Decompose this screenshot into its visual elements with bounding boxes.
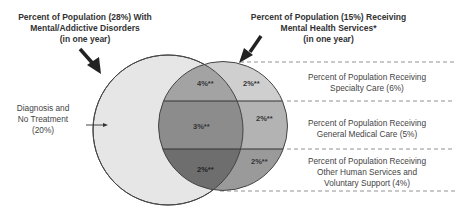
label-diagnosis-line2: No Treatment [8,114,78,125]
arrow-left-icon [80,49,101,74]
band-specialty-line2: Specialty Care (6%) [292,83,442,94]
band-general-line2: General Medical Care (5%) [292,129,442,140]
pct-services-only-specialty: 2%** [243,79,260,88]
band-other-line1: Percent of Population Receiving [292,156,442,167]
label-diagnosis-no-treatment: Diagnosis and No Treatment (20%) [8,103,78,136]
band-general-line1: Percent of Population Receiving [292,118,442,129]
band-label-specialty: Percent of Population Receiving Specialt… [292,72,442,94]
band-other-line3: Voluntary Support (4%) [292,178,442,189]
band-label-other: Percent of Population Receiving Other Hu… [292,156,442,189]
title-disorders-line1: Percent of Population (28%) With [10,12,160,23]
title-services-line3: (in one year) [236,34,421,45]
pct-overlap-specialty: 4%** [197,79,214,88]
title-services-line2: Mental Health Services* [236,23,421,34]
label-diagnosis-line1: Diagnosis and [8,103,78,114]
label-diagnosis-line3: (20%) [8,125,78,136]
pct-services-only-general: 2%** [256,114,273,123]
title-disorders-line3: (in one year) [10,34,160,45]
band-specialty-line1: Percent of Population Receiving [292,72,442,83]
band-label-general: Percent of Population Receiving General … [292,118,442,140]
title-services: Percent of Population (15%) Receiving Me… [236,12,421,45]
pct-services-only-other: 2%** [251,157,268,166]
band-other-line2: Other Human Services and [292,167,442,178]
pct-overlap-general: 3%** [193,122,210,131]
venn-diagram: Percent of Population (28%) With Mental/… [0,0,455,217]
title-disorders-line2: Mental/Addictive Disorders [10,23,160,34]
title-services-line1: Percent of Population (15%) Receiving [236,12,421,23]
pct-overlap-other: 2%** [197,165,214,174]
title-disorders: Percent of Population (28%) With Mental/… [10,12,160,45]
